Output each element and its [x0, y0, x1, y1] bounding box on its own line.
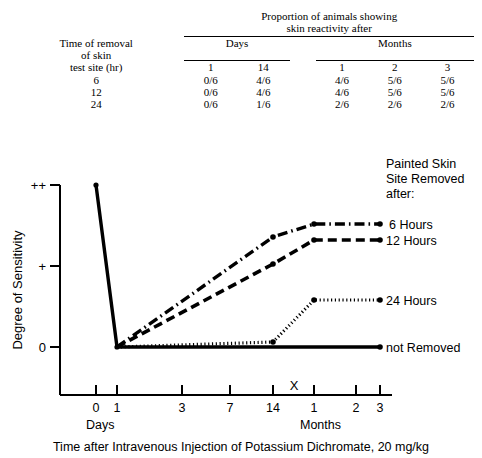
cell-day-14: 4/6	[237, 74, 290, 86]
x-axis-caption: Time after Intravenous Injection of Pota…	[53, 440, 429, 454]
y-tick-label-plusplus: ++	[31, 178, 46, 193]
table-row: 6 0/6 4/6 4/6 5/6 5/6	[8, 74, 474, 86]
column-header-day-1: 1	[184, 61, 237, 74]
table-spanning-header-row: Time of removal of skin test site (hr) P…	[8, 10, 474, 35]
table-rule-gap	[290, 49, 316, 61]
chart-legend: Painted Skin Site Removed after: 6 Hours…	[386, 157, 465, 355]
cell-day-1: 0/6	[184, 98, 237, 110]
table-rule-months	[316, 49, 474, 61]
x-tick-label-day-14: 14	[266, 401, 280, 415]
x-tick-label-day-3: 3	[179, 401, 186, 415]
y-axis-title: Degree of Sensitivity	[10, 230, 25, 350]
legend-label-not-removed: not Removed	[386, 341, 460, 355]
cell-day-1: 0/6	[184, 74, 237, 86]
x-tick-label-month-1: 1	[311, 401, 318, 415]
column-header-day-14: 14	[237, 61, 290, 74]
cell-day-1: 0/6	[184, 86, 237, 98]
series-6-hours-line	[117, 224, 380, 347]
cell-month-3: 5/6	[421, 86, 474, 98]
stub-header-line-1: Time of removal	[59, 37, 133, 49]
column-header-month-3: 3	[421, 61, 474, 74]
group-header-months: Months	[316, 36, 474, 49]
cell-month-2: 5/6	[368, 86, 421, 98]
cell-gap	[290, 74, 316, 86]
x-tick-label-month-3: 3	[377, 401, 384, 415]
y-tick-label-zero: 0	[39, 340, 46, 355]
column-header-month-2: 2	[368, 61, 421, 74]
table-spanning-header: Proportion of animals showing skin react…	[184, 10, 474, 35]
series-24-hours-line	[117, 300, 380, 347]
data-point	[270, 234, 276, 240]
x-tick-label-month-2: 2	[353, 401, 360, 415]
cell-month-3: 5/6	[421, 74, 474, 86]
skin-reactivity-table: Time of removal of skin test site (hr) P…	[8, 10, 474, 110]
spanning-header-line-2: skin reactivity after	[286, 22, 372, 34]
legend-label-24-hours: 24 Hours	[386, 294, 437, 308]
data-point	[311, 237, 317, 243]
x-tick-label-day-0: 0	[93, 401, 100, 415]
legend-title-line-1: Painted Skin	[386, 157, 456, 171]
data-point	[311, 221, 317, 227]
table-row: 12 0/6 4/6 4/6 5/6 5/6	[8, 86, 474, 98]
data-point	[377, 297, 383, 303]
cell-gap	[290, 98, 316, 110]
table-rule-days	[184, 49, 289, 61]
x-tick-label-day-1: 1	[114, 401, 121, 415]
series-24-hours	[117, 297, 383, 347]
cell-month-2: 5/6	[368, 74, 421, 86]
column-header-month-1: 1	[316, 61, 369, 74]
sensitivity-chart-block: ++ + 0 Degree of Sensitivity X 0 1 3 7 1…	[0, 152, 482, 458]
table-stub-header: Time of removal of skin test site (hr)	[8, 10, 184, 74]
cell-month-3: 2/6	[421, 98, 474, 110]
results-table-block: Time of removal of skin test site (hr) P…	[0, 0, 482, 152]
column-header-gap	[290, 61, 316, 74]
data-point	[270, 261, 276, 267]
cell-day-14: 4/6	[237, 86, 290, 98]
data-point	[93, 182, 98, 187]
cell-gap	[290, 86, 316, 98]
row-label: 24	[8, 98, 184, 110]
axis-break-marker: X	[290, 378, 299, 393]
data-point	[377, 344, 383, 350]
data-point	[377, 221, 383, 227]
data-point	[270, 339, 276, 345]
legend-label-6-hours: 6 Hours	[389, 218, 433, 232]
series-not-removed-line	[96, 185, 380, 347]
x-unit-label-days: Days	[86, 418, 114, 432]
cell-month-2: 2/6	[368, 98, 421, 110]
legend-title-line-3: after:	[386, 187, 415, 201]
data-point	[311, 297, 317, 303]
cell-month-1: 4/6	[316, 86, 369, 98]
cell-day-14: 1/6	[237, 98, 290, 110]
row-label: 6	[8, 74, 184, 86]
y-tick-label-plus: +	[38, 259, 46, 274]
x-tick-label-day-7: 7	[227, 401, 234, 415]
sensitivity-line-chart: ++ + 0 Degree of Sensitivity X 0 1 3 7 1…	[0, 152, 482, 458]
table-row: 24 0/6 1/6 2/6 2/6 2/6	[8, 98, 474, 110]
cell-month-1: 2/6	[316, 98, 369, 110]
stub-header-line-3: test site (hr)	[70, 61, 123, 73]
legend-label-12-hours: 12 Hours	[386, 234, 437, 248]
series-not-removed	[93, 182, 382, 349]
row-label: 12	[8, 86, 184, 98]
group-header-gap	[290, 36, 316, 49]
x-unit-label-months: Months	[300, 418, 341, 432]
cell-month-1: 4/6	[316, 74, 369, 86]
data-point	[377, 237, 383, 243]
legend-title-line-2: Site Removed	[386, 172, 465, 186]
group-header-days: Days	[184, 36, 289, 49]
spanning-header-line-1: Proportion of animals showing	[261, 10, 397, 22]
stub-header-line-2: of skin	[81, 49, 111, 61]
